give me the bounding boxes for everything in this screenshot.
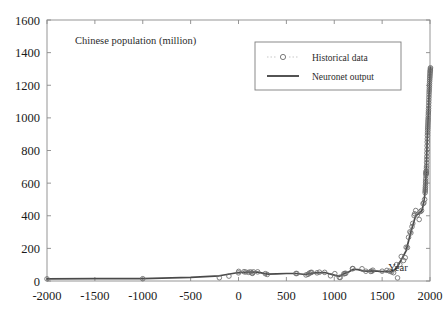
x-tick-label: 1500 — [370, 289, 395, 303]
y-tick-label: 600 — [21, 177, 40, 191]
y-tick-label: 400 — [21, 209, 40, 223]
x-tick-label: 1000 — [322, 289, 347, 303]
chart-title: Chinese population (million) — [75, 35, 197, 47]
y-tick-label: 1600 — [15, 14, 40, 28]
x-tick-label: -2000 — [32, 289, 61, 303]
x-tick-label: -1500 — [80, 289, 109, 303]
x-tick-label: 500 — [277, 289, 296, 303]
x-axis-label: Year — [388, 262, 408, 273]
legend-label: Neuronet output — [312, 72, 374, 82]
x-tick-label: -1000 — [128, 289, 157, 303]
y-tick-label: 1000 — [15, 111, 40, 125]
y-tick-label: 200 — [21, 242, 40, 256]
x-tick-label: 0 — [235, 289, 241, 303]
y-tick-label: 800 — [21, 144, 40, 158]
population-chart: -2000-1500-1000-500050010001500200002004… — [0, 0, 446, 321]
legend: Historical dataNeuronet output — [255, 42, 401, 90]
x-tick-label: 2000 — [418, 289, 443, 303]
legend-label: Historical data — [312, 53, 368, 63]
legend-box — [255, 42, 401, 90]
x-tick-label: -500 — [179, 289, 202, 303]
y-tick-label: 0 — [34, 275, 40, 289]
y-tick-label: 1400 — [15, 46, 40, 60]
y-tick-label: 1200 — [15, 79, 40, 93]
